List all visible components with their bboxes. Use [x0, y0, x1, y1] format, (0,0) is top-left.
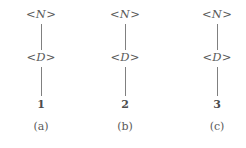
tree-c-child-open-bracket: < [202, 50, 212, 64]
tree-b-leaf: 2 [121, 98, 129, 111]
tree-b-child-symbol: D [120, 50, 129, 64]
tree-c-child-close-bracket: > [222, 50, 232, 64]
tree-a-caption: (a) [33, 120, 48, 133]
figure-three-parse-trees: <N> <D> 1 (a) <N> <D> 2 (b) <N> <D> 3 (c… [0, 0, 246, 148]
tree-c-root-open-bracket: < [202, 7, 212, 21]
tree-b-root-node: <N> [110, 7, 140, 21]
tree-a-child-symbol: D [36, 50, 45, 64]
tree-b-root-open-bracket: < [110, 7, 120, 21]
tree-a-child-open-bracket: < [26, 50, 36, 64]
tree-a-root-node: <N> [26, 7, 56, 21]
tree-c-edge-child-to-leaf [217, 67, 218, 96]
parse-tree-c: <N> <D> 3 (c) [176, 0, 246, 148]
tree-b-child-close-bracket: > [130, 50, 140, 64]
tree-c-child-node: <D> [202, 50, 231, 64]
tree-a-child-close-bracket: > [46, 50, 56, 64]
tree-b-child-open-bracket: < [110, 50, 120, 64]
tree-c-root-close-bracket: > [222, 7, 232, 21]
tree-b-root-close-bracket: > [130, 7, 140, 21]
tree-a-root-close-bracket: > [46, 7, 56, 21]
tree-b-edge-root-to-child [125, 24, 126, 50]
tree-b-child-node: <D> [110, 50, 139, 64]
tree-c-caption: (c) [210, 120, 225, 133]
tree-a-edge-root-to-child [41, 24, 42, 50]
tree-a-leaf: 1 [37, 98, 45, 111]
tree-c-leaf: 3 [213, 98, 221, 111]
tree-b-root-symbol: N [120, 7, 130, 21]
tree-b-edge-child-to-leaf [125, 67, 126, 96]
parse-tree-b: <N> <D> 2 (b) [84, 0, 166, 148]
tree-a-root-open-bracket: < [26, 7, 36, 21]
tree-c-edge-root-to-child [217, 24, 218, 50]
tree-a-child-node: <D> [26, 50, 55, 64]
parse-tree-a: <N> <D> 1 (a) [0, 0, 82, 148]
tree-a-root-symbol: N [36, 7, 46, 21]
tree-b-caption: (b) [117, 120, 133, 133]
tree-c-root-symbol: N [212, 7, 222, 21]
tree-c-root-node: <N> [202, 7, 232, 21]
tree-a-edge-child-to-leaf [41, 67, 42, 96]
tree-c-child-symbol: D [212, 50, 221, 64]
